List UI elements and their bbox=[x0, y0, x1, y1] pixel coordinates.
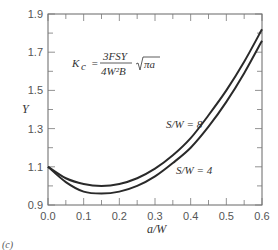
curves bbox=[48, 29, 262, 193]
y-tick-label: 1.3 bbox=[28, 123, 43, 135]
x-tick-label: 0.1 bbox=[76, 210, 91, 222]
x-tick-labels: 0.00.10.20.30.40.50.6 bbox=[40, 210, 269, 222]
x-axis-label: a/W bbox=[147, 222, 167, 236]
x-tick-label: 0.3 bbox=[147, 210, 162, 222]
chart: 0.00.10.20.30.40.50.6 0.91.11.31.51.71.9… bbox=[0, 0, 278, 250]
y-tick-label: 0.9 bbox=[28, 199, 43, 211]
formula-equals: = bbox=[91, 57, 98, 69]
formula-lhs: K bbox=[71, 57, 80, 69]
formula: K c = 3FSY 4W²B πa bbox=[71, 50, 160, 77]
y-axis-label: Y bbox=[22, 102, 30, 116]
formula-lhs-sub: c bbox=[81, 60, 86, 72]
x-tick-label: 0.2 bbox=[112, 210, 127, 222]
panel-label: (c) bbox=[2, 239, 14, 250]
y-tick-label: 1.5 bbox=[28, 84, 43, 96]
x-tick-label: 0.0 bbox=[40, 210, 55, 222]
series-curve-0 bbox=[48, 29, 262, 186]
x-tick-label: 0.4 bbox=[183, 210, 198, 222]
series-label-sw4: S/W = 4 bbox=[176, 164, 213, 176]
formula-sqrt-arg: πa bbox=[144, 58, 156, 70]
y-tick-labels: 0.91.11.31.51.71.9 bbox=[28, 8, 43, 211]
formula-denominator: 4W²B bbox=[101, 65, 126, 77]
y-tick-label: 1.1 bbox=[28, 161, 43, 173]
x-tick-label: 0.6 bbox=[254, 210, 269, 222]
formula-numerator: 3FSY bbox=[102, 50, 129, 62]
y-tick-label: 1.7 bbox=[28, 46, 43, 58]
y-tick-label: 1.9 bbox=[28, 8, 43, 20]
x-tick-label: 0.5 bbox=[219, 210, 234, 222]
series-label-sw8: S/W = 8 bbox=[166, 118, 203, 130]
